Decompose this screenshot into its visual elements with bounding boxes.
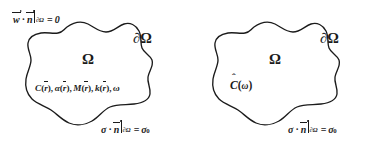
c-hat-symbol: C <box>230 80 238 92</box>
dot-operator: · <box>106 125 113 135</box>
param-alpha: α(r) <box>55 83 70 93</box>
boundary-label-left: ∂Ω <box>133 31 152 46</box>
restriction-marker: ∂Ω <box>34 10 44 21</box>
diagram-panel-right: ∂Ω Ω C(ω) σ · n ∂Ω = σ0 <box>187 0 374 148</box>
param-omega: ω <box>113 83 120 93</box>
restriction-subscript: ∂Ω <box>36 17 44 24</box>
vector-n: n <box>114 125 120 135</box>
vector-r: r <box>44 84 48 93</box>
rhs-value: 0 <box>55 15 60 25</box>
vector-r: r <box>84 84 88 93</box>
bottom-boundary-condition-left: σ · n ∂Ω = σ0 <box>101 120 150 135</box>
dot-operator: · <box>293 125 300 135</box>
top-boundary-condition-left: w · n ∂Ω = 0 <box>13 10 60 25</box>
restriction-subscript: ∂Ω <box>123 127 131 134</box>
boundary-label-right: ∂Ω <box>320 31 339 46</box>
vector-r: r <box>103 84 107 93</box>
restriction-marker: ∂Ω <box>121 120 131 131</box>
domain-label-right: Ω <box>269 52 281 67</box>
rhs-subscript: 0 <box>146 128 149 135</box>
equals-sign: = <box>44 15 55 25</box>
close-paren: ) <box>248 79 252 91</box>
material-parameters-left: C(r),α(r),M(r),k(r),ω <box>35 84 120 93</box>
vector-n: n <box>301 125 307 135</box>
equals-sign: = <box>318 125 329 135</box>
bottom-boundary-condition-right: σ · n ∂Ω = σ0 <box>288 120 337 135</box>
estimated-parameter-right: C(ω) <box>230 80 252 92</box>
domain-blob-right <box>187 0 374 148</box>
vector-w: w <box>13 15 20 25</box>
vector-n: n <box>27 15 33 25</box>
domain-label-left: Ω <box>82 52 94 67</box>
restriction-marker: ∂Ω <box>308 120 318 131</box>
rhs-subscript: 0 <box>333 128 336 135</box>
param-M: M(r) <box>73 83 91 93</box>
omega-symbol: Ω <box>140 30 152 46</box>
param-k: k(r) <box>95 83 109 93</box>
param-C: C(r) <box>35 83 51 93</box>
restriction-subscript: ∂Ω <box>310 127 318 134</box>
omega-symbol: Ω <box>327 30 339 46</box>
vector-r: r <box>63 84 67 93</box>
figure-canvas: w · n ∂Ω = 0 ∂Ω Ω C(r),α(r),M(r),k(r),ω … <box>0 0 374 148</box>
equals-sign: = <box>131 125 142 135</box>
diagram-panel-left: w · n ∂Ω = 0 ∂Ω Ω C(r),α(r),M(r),k(r),ω … <box>0 0 187 148</box>
dot-operator: · <box>20 15 27 25</box>
